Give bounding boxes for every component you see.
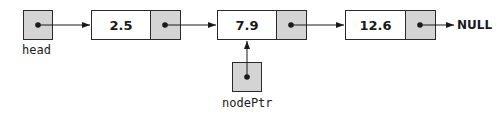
node-1-next-pointer [150, 10, 181, 40]
node-2-next-pointer [276, 10, 307, 40]
node-3-next-pointer [405, 10, 436, 40]
head-label: head [22, 43, 51, 57]
head-pointer-box [23, 10, 53, 40]
node-3-data: 12.6 [345, 10, 406, 40]
linked-list-diagram: head 2.5 7.9 12.6 NULL nodePtr [0, 0, 503, 113]
nodeptr-label: nodePtr [222, 96, 273, 110]
nodeptr-pointer-box [232, 62, 262, 92]
null-terminator: NULL [457, 18, 492, 32]
node-2-data: 7.9 [217, 10, 277, 40]
node-1-data: 2.5 [91, 10, 151, 40]
